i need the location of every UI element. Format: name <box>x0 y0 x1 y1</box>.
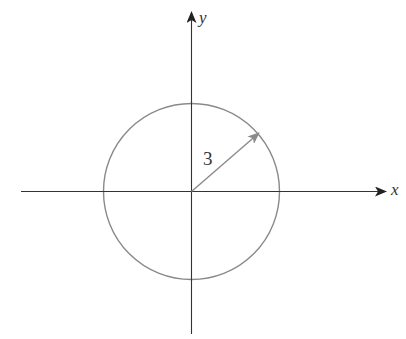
diagram-canvas: y x 3 <box>0 0 406 339</box>
x-axis-label: x <box>391 181 399 198</box>
radius-arrow <box>192 133 260 192</box>
diagram-svg <box>0 0 406 339</box>
y-axis-label: y <box>199 9 207 26</box>
radius-label: 3 <box>203 149 213 168</box>
